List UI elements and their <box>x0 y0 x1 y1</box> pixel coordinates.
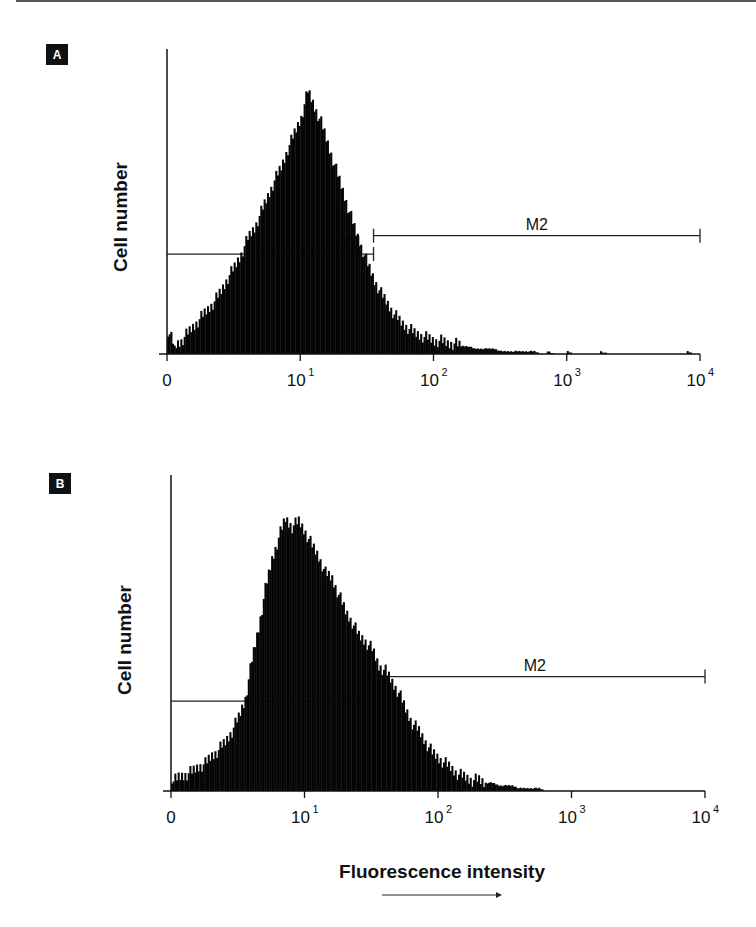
x-axis-label: Fluorescence intensity <box>339 861 545 882</box>
panel-b-x-tick-exponent: 2 <box>446 803 452 815</box>
panel-b-marker-m2: M2 <box>365 657 705 684</box>
panel-b-histogram: Cell number M20101102103104 <box>114 475 719 827</box>
panel-a-x-tick-label: 10 <box>687 371 706 390</box>
panel-a-x-tick-label: 0 <box>162 371 171 390</box>
panel-a-y-axis-label: Cell number <box>110 162 131 272</box>
panel-a-x-tick-exponent: 2 <box>442 366 448 378</box>
panel-b-x-tick-label: 10 <box>291 808 310 827</box>
panel-a-marker-m2: M2 <box>374 216 700 243</box>
panel-b-x-tick-label: 10 <box>692 808 711 827</box>
panel-a-x-tick-exponent: 1 <box>308 366 314 378</box>
panel-b-x-tick-label: 10 <box>558 808 577 827</box>
panel-b-x-tick-exponent: 1 <box>313 803 319 815</box>
panel-b-x-tick-label: 0 <box>166 808 175 827</box>
figure-svg: Cell number M1M20101102103104 Cell numbe… <box>0 0 756 927</box>
panel-a-x-tick-label: 10 <box>287 371 306 390</box>
panel-a-histogram: Cell number M1M20101102103104 <box>110 49 714 390</box>
panel-a-x-tick-exponent: 3 <box>575 366 581 378</box>
panel-b-x-tick-label: 10 <box>425 808 444 827</box>
panel-b-x-tick-exponent: 4 <box>713 803 719 815</box>
panel-a-marker-m2-label: M2 <box>526 216 548 233</box>
panel-a-x-tick-label: 10 <box>553 371 572 390</box>
x-axis-arrow-icon <box>382 892 502 898</box>
panel-a-bins <box>167 90 694 354</box>
panel-b-x-tick-exponent: 3 <box>580 803 586 815</box>
panel-a-x-tick-label: 10 <box>420 371 439 390</box>
panel-b-y-axis-label: Cell number <box>114 585 135 695</box>
panel-a-x-tick-exponent: 4 <box>708 366 714 378</box>
panel-b-bins <box>171 516 545 791</box>
panel-b-marker-m2-label: M2 <box>524 657 546 674</box>
